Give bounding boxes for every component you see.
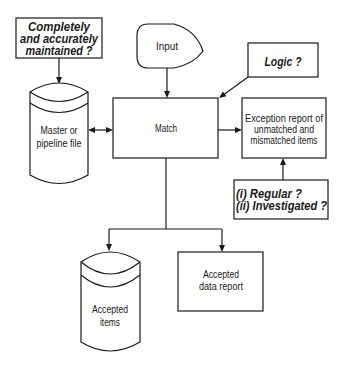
connector-master-match-bidirectional bbox=[88, 127, 113, 133]
arrowhead-right-icon bbox=[106, 127, 113, 133]
completeness-check-line-3: maintained ? bbox=[26, 44, 94, 58]
match-process-box: Match bbox=[113, 98, 218, 158]
input-label: Input bbox=[156, 41, 178, 52]
exception-report-line-3: mismatched items bbox=[251, 135, 318, 146]
logic-check-label: Logic ? bbox=[265, 55, 303, 69]
review-check-box: (i) Regular ? (ii) Investigated ? bbox=[234, 180, 328, 219]
accepted-report-line-2: data report bbox=[199, 281, 243, 292]
master-file-line-2: pipeline file bbox=[37, 138, 82, 149]
accepted-items-line-1: Accepted bbox=[92, 304, 128, 315]
connector-logic-to-match bbox=[219, 77, 248, 98]
completeness-check-box: Completely and accurately maintained ? bbox=[16, 18, 102, 58]
accepted-items-line-2: items bbox=[100, 317, 120, 328]
connector-input-to-match bbox=[164, 68, 170, 98]
master-file-cylinder: Master or pipeline file bbox=[30, 83, 88, 184]
arrowhead-down-icon bbox=[106, 244, 112, 251]
exception-report-line-1: Exception report of bbox=[245, 113, 323, 124]
connector-match-to-exception bbox=[218, 127, 242, 133]
accepted-report-line-1: Accepted bbox=[203, 269, 239, 280]
arrowhead-left-icon bbox=[88, 127, 95, 133]
arrowhead-down-icon bbox=[164, 91, 170, 98]
arrowhead-down-icon bbox=[219, 245, 225, 252]
match-label: Match bbox=[155, 123, 177, 134]
accepted-items-cylinder: Accepted items bbox=[81, 252, 140, 351]
connector-completeness-to-master bbox=[56, 58, 62, 84]
review-check-line-2: (ii) Investigated ? bbox=[236, 199, 328, 213]
flowchart-canvas: Completely and accurately maintained ? M… bbox=[0, 0, 344, 374]
connector-review-to-exception bbox=[280, 158, 286, 180]
master-file-line-1: Master or bbox=[41, 125, 79, 136]
arrowhead-diagonal-icon bbox=[219, 92, 226, 99]
arrowhead-up-icon bbox=[280, 158, 286, 165]
exception-report-line-2: unmatched and bbox=[254, 124, 314, 135]
arrowhead-right-icon bbox=[235, 127, 242, 133]
connector-match-to-outputs bbox=[106, 158, 225, 252]
input-node: Input bbox=[137, 24, 203, 68]
logic-check-box: Logic ? bbox=[248, 43, 318, 77]
exception-report-box: Exception report of unmatched and mismat… bbox=[242, 98, 326, 158]
accepted-report-box: Accepted data report bbox=[178, 252, 263, 311]
